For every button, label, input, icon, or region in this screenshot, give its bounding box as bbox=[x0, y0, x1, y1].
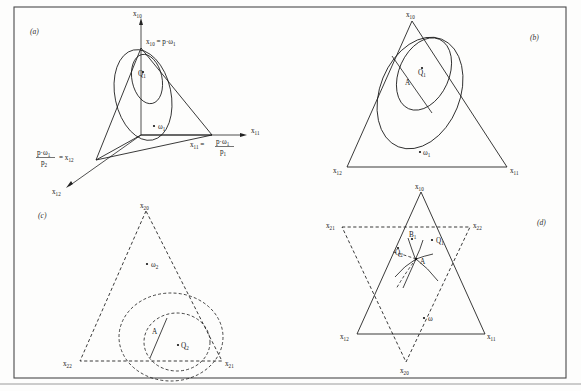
svg-text:= x12: = x12 bbox=[59, 154, 74, 163]
point-label-Q2-c: Q2 bbox=[181, 342, 189, 351]
panel-b: (b) x10 x12 x11 A Q1 ω1 bbox=[333, 11, 539, 176]
vertex-label-x21-d: x21 bbox=[326, 222, 335, 231]
vertex-label-x11-d: x11 bbox=[487, 333, 496, 342]
vertex-label-x20-c: x20 bbox=[140, 202, 149, 211]
axis-line-x12 bbox=[69, 135, 141, 186]
indifference-curve-outer-a bbox=[106, 44, 180, 146]
figure-frame bbox=[14, 7, 566, 378]
point-label-omega-d: ω bbox=[428, 315, 433, 323]
axis-arrow-x12 bbox=[66, 181, 73, 188]
indifference-curve-outer-c bbox=[119, 293, 223, 381]
svg-text:p2: p2 bbox=[41, 159, 48, 168]
figure-canvas: (a) x10 x11 x12 Q1 bbox=[0, 0, 581, 391]
point-omega2-c bbox=[146, 263, 148, 265]
point-label-Q1-a: Q1 bbox=[138, 70, 146, 79]
tangent-line-b bbox=[392, 56, 432, 113]
vertex-label-x21-c: x21 bbox=[225, 360, 234, 369]
vertex-label-x12-d: x12 bbox=[340, 333, 349, 342]
figure-root: (a) x10 x11 x12 Q1 bbox=[0, 0, 581, 391]
vertex-equation-x10-a: x10 = p·ω1 bbox=[146, 38, 176, 47]
projection-line-x12 bbox=[96, 135, 141, 160]
point-Q2-c bbox=[177, 344, 179, 346]
point-omega-d bbox=[423, 317, 425, 319]
point-label-Q1-b: Q1 bbox=[418, 69, 426, 78]
axis-arrow-x10 bbox=[139, 18, 143, 25]
indifference-curve-inner-a bbox=[127, 51, 167, 106]
panel-d-tag: (d) bbox=[537, 218, 546, 227]
svg-text:p·ω1: p·ω1 bbox=[216, 138, 230, 147]
svg-text:p·ω1: p·ω1 bbox=[37, 149, 51, 158]
svg-text:x11 =: x11 = bbox=[190, 141, 204, 150]
point-label-B1-d: B1 bbox=[409, 231, 417, 240]
budget-simplex-c bbox=[80, 211, 222, 361]
point-label-Q1-d: Q1 bbox=[436, 237, 444, 246]
vertex-equation-x12-a: p·ω1 p2 = x12 bbox=[36, 149, 74, 168]
vertex-label-x20-d: x20 bbox=[400, 367, 409, 376]
axis-label-x12: x12 bbox=[52, 188, 61, 197]
point-Q1-d bbox=[431, 239, 433, 241]
point-label-Q2-d: Q2 bbox=[395, 249, 403, 258]
curve-arc-1-d bbox=[408, 238, 415, 258]
vertex-label-x22-d: x22 bbox=[473, 222, 482, 231]
vertex-label-x11-b: x11 bbox=[510, 167, 519, 176]
curve-arc-3-d bbox=[395, 259, 416, 277]
indifference-curve-inner-c bbox=[144, 313, 210, 371]
vertex-equation-x11-a: x11 = p·ω1 p1 bbox=[190, 138, 234, 157]
vertex-label-x10-d: x10 bbox=[415, 183, 424, 192]
point-label-A-c: A bbox=[152, 328, 158, 336]
point-label-omega1-b: ω1 bbox=[423, 149, 431, 158]
point-label-A-d: A bbox=[420, 258, 426, 266]
curve-arc-5-d bbox=[396, 259, 416, 289]
panel-b-tag: (b) bbox=[530, 33, 539, 42]
vertex-label-x22-c: x22 bbox=[63, 360, 72, 369]
point-omega1-a bbox=[153, 125, 155, 127]
vertex-label-x12-b: x12 bbox=[333, 167, 342, 176]
panel-c: (c) x20 x22 x21 A Q2 ω2 bbox=[38, 202, 234, 381]
tangent-line-c bbox=[150, 318, 167, 358]
panel-d: (d) x10 x12 x11 x21 x22 x20 A bbox=[326, 183, 546, 376]
axis-label-x10: x10 bbox=[133, 10, 142, 19]
budget-simplex-inverted-d bbox=[342, 227, 470, 362]
svg-text:p1: p1 bbox=[220, 148, 227, 157]
panel-c-tag: (c) bbox=[38, 211, 47, 220]
panel-a: (a) x10 x11 x12 Q1 bbox=[30, 10, 260, 197]
vertex-label-x10-b: x10 bbox=[406, 11, 415, 20]
point-A-d bbox=[415, 258, 417, 260]
panel-a-tag: (a) bbox=[30, 27, 39, 36]
budget-simplex-b bbox=[347, 21, 507, 167]
axis-label-x11: x11 bbox=[251, 127, 260, 136]
point-label-omega1-a: ω1 bbox=[158, 123, 166, 132]
point-label-omega2-c: ω2 bbox=[151, 261, 159, 270]
point-omega1-b bbox=[419, 151, 421, 153]
indifference-curve-outer-b bbox=[361, 24, 479, 162]
curve-arc-2-d bbox=[416, 240, 423, 258]
axis-arrow-x11 bbox=[240, 133, 247, 137]
point-label-A-b: A bbox=[405, 79, 411, 87]
